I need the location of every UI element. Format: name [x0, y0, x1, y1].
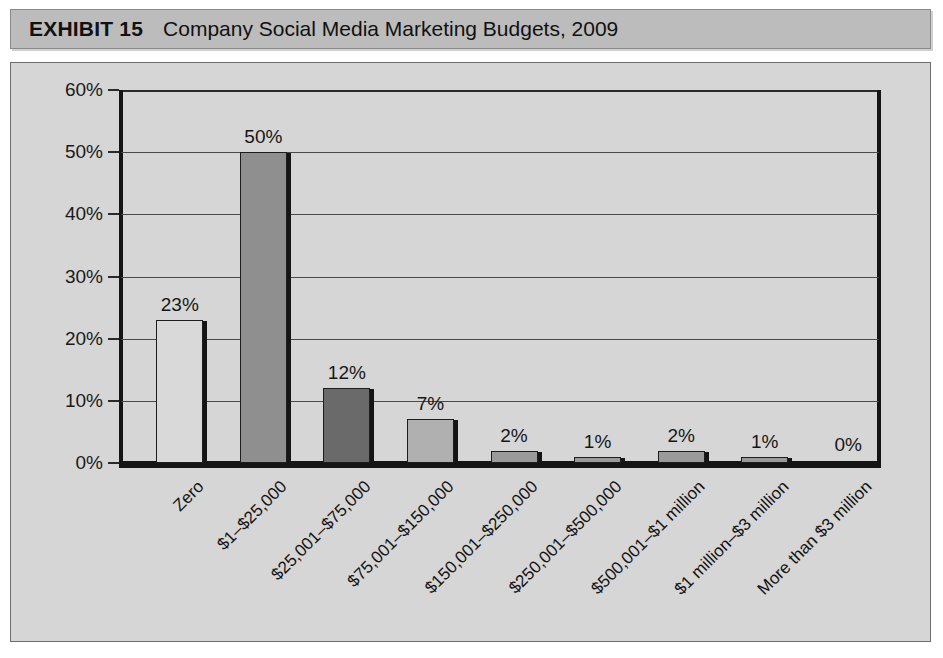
bar [156, 320, 203, 463]
bar-value-label: 7% [417, 393, 444, 415]
y-tick-mark [108, 276, 119, 278]
y-tick-label: 10% [65, 390, 103, 412]
bar-value-label: 1% [584, 431, 611, 453]
y-tick-label: 0% [76, 452, 103, 474]
bar-value-label: 50% [244, 126, 282, 148]
x-axis-label: $25,001–$75,000 [267, 477, 375, 585]
exhibit-title: Company Social Media Marketing Budgets, … [163, 17, 618, 41]
y-tick-mark [108, 151, 119, 153]
bar-group: 1% [741, 90, 788, 463]
x-axis-label: Zero [169, 477, 208, 516]
bar-group: 23% [156, 90, 203, 463]
bar-group: 50% [240, 90, 287, 463]
x-axis-label: $1–$25,000 [214, 477, 292, 555]
x-axis-label: More than $3 million [754, 477, 876, 599]
y-tick-label: 20% [65, 328, 103, 350]
bar-group: 12% [323, 90, 370, 463]
bar-value-label: 2% [667, 425, 694, 447]
y-tick-mark [108, 213, 119, 215]
bar-value-label: 1% [751, 431, 778, 453]
bar-group: 2% [491, 90, 538, 463]
bar [574, 457, 621, 463]
exhibit-header-bar: EXHIBIT 15 Company Social Media Marketin… [10, 9, 931, 49]
y-tick-label: 30% [65, 266, 103, 288]
bar-value-label: 23% [161, 294, 199, 316]
y-tick-label: 40% [65, 203, 103, 225]
y-tick-mark [108, 400, 119, 402]
y-tick-label: 50% [65, 141, 103, 163]
chart-panel: 60%50%40%30%20%10%0% 23%50%12%7%2%1%2%1%… [10, 62, 931, 642]
bar-group: 1% [574, 90, 621, 463]
bar-value-label: 0% [834, 434, 861, 456]
bar-group: 2% [658, 90, 705, 463]
x-axis-label: $250,001–$500,000 [505, 477, 626, 598]
y-tick-mark [108, 338, 119, 340]
plot-area: 60%50%40%30%20%10%0% 23%50%12%7%2%1%2%1%… [119, 90, 881, 463]
x-axis-label: $500,001–$1 million [588, 477, 710, 599]
bar [658, 451, 705, 463]
bar [491, 451, 538, 463]
x-axis-label: $1 million–$3 million [670, 477, 792, 599]
x-axis-label: $75,001–$150,000 [344, 477, 458, 591]
x-axis-label: $150,001–$250,000 [421, 477, 542, 598]
y-tick-label: 60% [65, 79, 103, 101]
y-tick-mark [108, 89, 119, 91]
bar [741, 457, 788, 463]
bar [240, 152, 287, 463]
bar-group: 7% [407, 90, 454, 463]
y-tick-mark [108, 462, 119, 464]
bar-value-label: 12% [328, 362, 366, 384]
bar [407, 419, 454, 463]
bar [323, 388, 370, 463]
bar-value-label: 2% [500, 425, 527, 447]
exhibit-number-label: EXHIBIT 15 [29, 17, 143, 41]
bar-group: 0% [825, 90, 872, 463]
